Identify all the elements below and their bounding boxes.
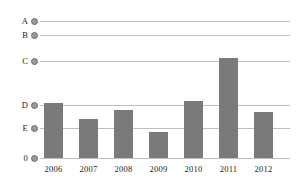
bar-chart: A B C D E 0 2006 2007 2008 2009 2010 201… (0, 0, 304, 190)
axis-marker-e (31, 125, 38, 132)
ytick-label-c: C (12, 56, 28, 66)
ytick-label-zero: 0 (12, 153, 28, 163)
axis-baseline (40, 158, 290, 159)
axis-marker-b (31, 32, 38, 39)
bar-2006 (44, 103, 63, 158)
ytick-label-b: B (12, 30, 28, 40)
xtick-label-2009: 2009 (141, 164, 176, 174)
bar-2008 (114, 110, 133, 158)
gridline-e (40, 128, 290, 129)
xtick-label-2010: 2010 (176, 164, 211, 174)
xtick-label-2008: 2008 (106, 164, 141, 174)
ytick-label-a: A (12, 16, 28, 26)
axis-marker-zero (31, 155, 38, 162)
axis-marker-d (31, 102, 38, 109)
gridline-a (40, 21, 290, 22)
bar-2011 (219, 58, 238, 158)
axis-marker-c (31, 58, 38, 65)
xtick-label-2011: 2011 (211, 164, 246, 174)
ytick-label-e: E (12, 123, 28, 133)
axis-marker-a (31, 18, 38, 25)
plot-area: A B C D E 0 2006 2007 2008 2009 2010 201… (0, 0, 304, 190)
xtick-label-2006: 2006 (36, 164, 71, 174)
bar-2010 (184, 101, 203, 158)
bar-2009 (149, 132, 168, 158)
gridline-c (40, 61, 290, 62)
bar-2007 (79, 119, 98, 158)
xtick-label-2012: 2012 (246, 164, 281, 174)
ytick-label-d: D (12, 100, 28, 110)
gridline-b (40, 35, 290, 36)
gridline-d (40, 105, 290, 106)
bar-2012 (254, 112, 273, 158)
xtick-label-2007: 2007 (71, 164, 106, 174)
